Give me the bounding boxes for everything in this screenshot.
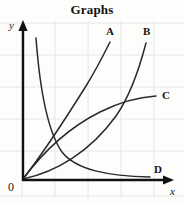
x-axis-arrow-icon bbox=[163, 175, 174, 184]
curve-d bbox=[36, 38, 150, 177]
curve-label-c: C bbox=[162, 89, 170, 101]
curve-label-a: A bbox=[106, 25, 114, 37]
y-axis-label: y bbox=[9, 19, 14, 31]
origin-label: 0 bbox=[8, 180, 14, 195]
curve-label-b: B bbox=[143, 25, 150, 37]
curve-label-d: D bbox=[154, 163, 162, 175]
curve-a bbox=[23, 42, 110, 179]
graphs-figure: Graphs y x 0 bbox=[0, 0, 184, 204]
y-axis-arrow-icon bbox=[18, 20, 27, 31]
curve-b bbox=[23, 43, 146, 179]
x-axis-label: x bbox=[170, 185, 175, 197]
curve-c bbox=[23, 96, 156, 179]
